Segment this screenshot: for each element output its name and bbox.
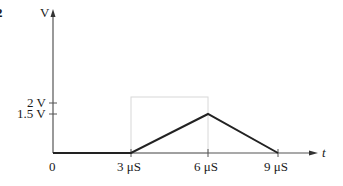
x-tick-label-6: 6 μS	[194, 160, 218, 174]
guide-box	[131, 97, 208, 153]
y-tick-label-1-5v: 1.5 V	[17, 107, 46, 121]
x-tick-label-9: 9 μS	[264, 160, 288, 174]
waveform-line	[53, 114, 278, 153]
x-tick-label-3: 3 μS	[117, 160, 141, 174]
x-axis-label: t	[322, 146, 326, 160]
y-axis-label: V	[40, 6, 49, 20]
x-tick-label-0: 0	[49, 160, 56, 174]
figure-number-fragment: 2	[0, 6, 3, 20]
x-axis-arrow-icon	[309, 151, 318, 156]
y-axis-arrow-icon	[51, 9, 56, 17]
